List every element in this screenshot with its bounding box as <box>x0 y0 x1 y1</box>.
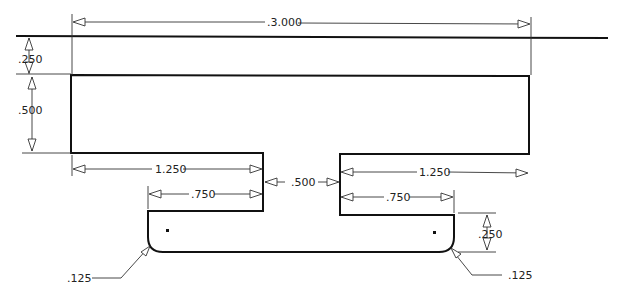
dim-lower-height: .250 <box>478 228 503 241</box>
hole-mark-left <box>166 229 169 232</box>
dim-right-inner: .750 <box>386 191 411 204</box>
dim-overall-width: .3.000 <box>267 16 302 29</box>
dim-top-offset: .250 <box>18 53 43 66</box>
dim-rect-height: .500 <box>18 104 43 117</box>
dim-right-flange: 1.250 <box>419 166 451 179</box>
dim-gap: .500 <box>291 176 316 189</box>
dim-fillet-right: .125 <box>508 269 533 282</box>
reference-line <box>16 36 608 38</box>
technical-drawing: .3.000 .250 .500 1.250 .750 .500 1.250 .… <box>0 0 625 297</box>
hole-mark-right <box>433 231 436 234</box>
dim-fillet-left: .125 <box>67 272 92 285</box>
part-outline <box>71 75 529 252</box>
dim-left-flange: 1.250 <box>155 163 187 176</box>
dim-left-inner: .750 <box>191 188 216 201</box>
